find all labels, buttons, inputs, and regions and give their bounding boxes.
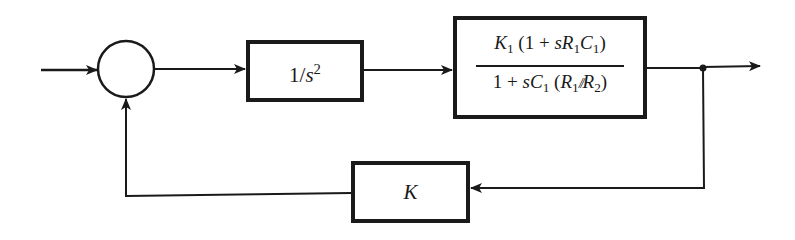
num-s: s: [554, 32, 561, 53]
integrator-label: 1/s2: [248, 54, 362, 90]
den-s: s: [523, 71, 530, 92]
den-one-plus: 1 +: [493, 71, 523, 92]
integrator-label-var: s: [305, 63, 313, 87]
num-c: C: [580, 32, 593, 53]
den-close: ): [601, 71, 607, 92]
den-r2-sub: 2: [594, 80, 601, 95]
feedback-gain-label: K: [353, 177, 468, 207]
compensator-numerator: K1 (1 + sR1C1): [494, 31, 605, 61]
compensator-label: K1 (1 + sR1C1) 1 + sC1 (R1//R2): [455, 31, 645, 100]
den-r2: R: [583, 71, 595, 92]
feedback-path-left: [126, 99, 351, 196]
integrator-label-exp: 2: [314, 61, 321, 77]
num-k-sub: 1: [507, 41, 514, 56]
integrator-label-numerator: 1/: [289, 63, 305, 87]
num-close: ): [599, 32, 605, 53]
summing-junction: [98, 41, 154, 97]
fraction-bar: [476, 65, 624, 67]
den-r1-sub: 1: [572, 80, 579, 95]
den-c: C: [530, 71, 543, 92]
num-open: (1 +: [514, 32, 555, 53]
compensator-denominator: 1 + sC1 (R1//R2): [493, 70, 607, 100]
output-signal-arrow: [703, 66, 760, 67]
den-open: (: [549, 71, 560, 92]
den-r1: R: [560, 71, 572, 92]
num-r: R: [562, 32, 574, 53]
num-k: K: [494, 32, 507, 53]
